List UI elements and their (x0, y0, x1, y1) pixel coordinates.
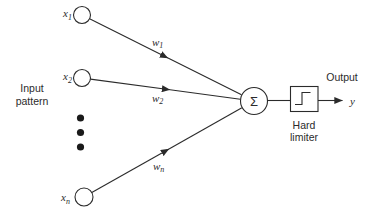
label-x2: x2 (62, 70, 72, 85)
input-node-x1 (74, 7, 91, 24)
input-node-x2 (74, 70, 91, 87)
sigma-symbol: Σ (250, 94, 258, 109)
hard-limiter-box (291, 87, 319, 112)
label-w2: w2 (152, 92, 163, 107)
connection-xn-sum (92, 108, 242, 193)
perceptron-diagram-canvas: Input pattern x1 x2 xn w1 w2 (0, 0, 371, 218)
label-w1: w1 (152, 36, 163, 51)
ellipsis-dots-icon (77, 114, 84, 150)
label-x1: x1 (62, 7, 72, 22)
input-pattern-label-line2: pattern (16, 95, 49, 107)
connection-x2-sum (90, 79, 240, 99)
input-pattern-label-line1: Input (20, 82, 43, 94)
label-xn: xn (60, 191, 70, 206)
hard-limiter-label-line1: Hard (293, 119, 316, 131)
perceptron-diagram: Input pattern x1 x2 xn w1 w2 (0, 0, 371, 218)
input-node-xn (75, 188, 93, 206)
output-label: Output (326, 71, 358, 83)
hard-limiter-label-line2: limiter (290, 131, 319, 143)
label-wn: wn (153, 160, 164, 175)
label-y: y (349, 95, 355, 107)
connection-x1-sum (90, 19, 242, 95)
